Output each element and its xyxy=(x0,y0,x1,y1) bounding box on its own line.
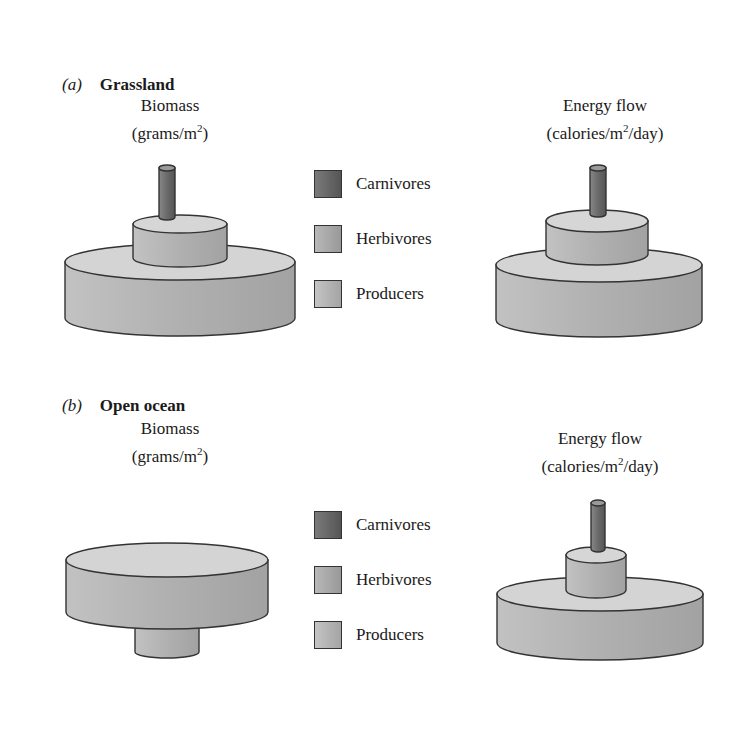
carnivores-cylinder xyxy=(591,500,605,552)
ocean-biomass-pyramid xyxy=(66,543,268,658)
carnivores-cylinder xyxy=(590,165,606,217)
carnivores-cylinder xyxy=(159,165,175,220)
pyramid-diagrams xyxy=(0,0,745,731)
herbivores-cylinder xyxy=(133,215,227,267)
producers-cylinder xyxy=(66,543,268,629)
herbivores-cylinder xyxy=(546,210,648,265)
grassland-energy-pyramid xyxy=(496,165,702,337)
herbivores-cylinder xyxy=(566,547,626,598)
ocean-energy-pyramid xyxy=(497,500,703,660)
grassland-biomass-pyramid xyxy=(65,165,295,336)
